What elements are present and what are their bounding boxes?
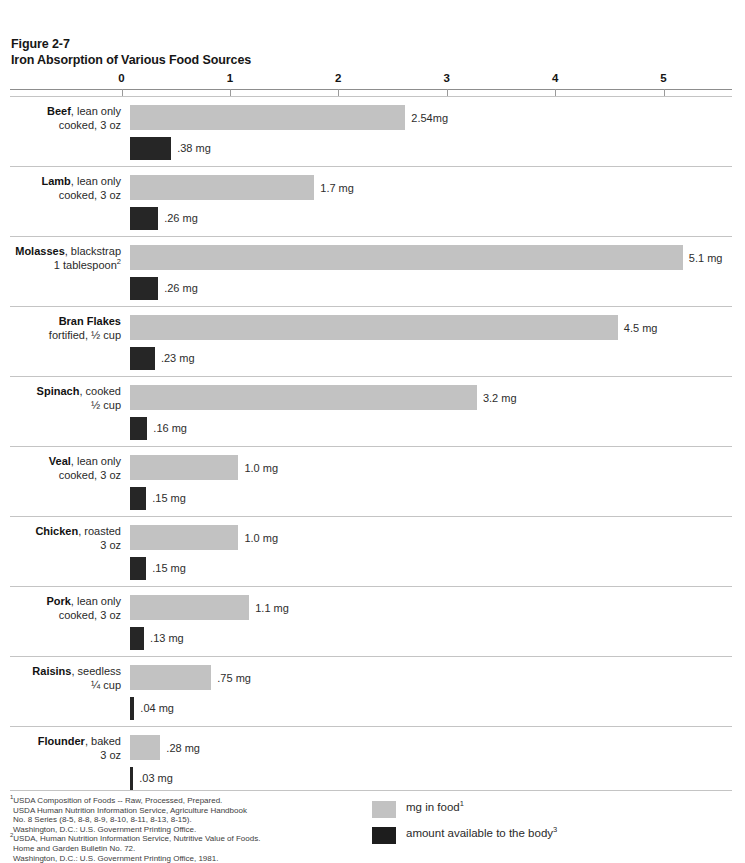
row-divider — [10, 726, 732, 727]
food-name-line: Veal, lean only — [0, 455, 121, 469]
food-name-line: Lamb, lean only — [0, 175, 121, 189]
row-label: Chicken, roasted3 oz — [0, 525, 121, 552]
footnote-line: Home and Garden Bulletin No. 72. — [10, 844, 340, 854]
chart-row: Bran Flakesfortified, ½ cup4.5 mg.23 mg — [0, 306, 745, 376]
bar-mg-in-food — [130, 315, 618, 340]
bar-value-available-to-body: .26 mg — [164, 212, 198, 224]
serving-size-line: ½ cup — [0, 399, 121, 413]
axis-tick-mark — [230, 89, 231, 96]
food-name: Veal — [49, 455, 71, 467]
x-axis: 012345 — [0, 72, 745, 96]
serving-size-line: ¼ cup — [0, 679, 121, 693]
chart-row: Spinach, cooked½ cup3.2 mg.16 mg — [0, 376, 745, 446]
axis-tick-label: 0 — [118, 72, 124, 84]
food-name-line: Chicken, roasted — [0, 525, 121, 539]
food-name-qualifier: , lean only — [71, 595, 121, 607]
food-name-line: Bran Flakes — [0, 315, 121, 329]
bar-available-to-body — [130, 207, 158, 230]
serving-size: fortified, ½ cup — [49, 329, 121, 341]
axis-tick-mark — [664, 89, 665, 96]
serving-size: cooked, 3 oz — [59, 189, 121, 201]
serving-size-line: 3 oz — [0, 539, 121, 553]
food-name-qualifier: , baked — [85, 735, 121, 747]
footer-divider — [10, 790, 732, 791]
bar-mg-in-food — [130, 455, 238, 480]
row-label: Veal, lean onlycooked, 3 oz — [0, 455, 121, 482]
chart-area: 012345 Beef, lean onlycooked, 3 oz2.54mg… — [0, 72, 745, 790]
axis-tick-label: 4 — [552, 72, 558, 84]
bar-value-available-to-body: .26 mg — [164, 282, 198, 294]
food-name-line: Beef, lean only — [0, 105, 121, 119]
bar-mg-in-food — [130, 175, 314, 200]
chart-row: Veal, lean onlycooked, 3 oz1.0 mg.15 mg — [0, 446, 745, 516]
chart-row: Lamb, lean onlycooked, 3 oz1.7 mg.26 mg — [0, 166, 745, 236]
legend-label: mg in food1 — [406, 801, 464, 813]
bar-value-mg-in-food: 3.2 mg — [483, 392, 517, 404]
row-divider — [10, 236, 732, 237]
bar-value-mg-in-food: 1.0 mg — [244, 532, 278, 544]
chart-row: Chicken, roasted3 oz1.0 mg.15 mg — [0, 516, 745, 586]
bar-mg-in-food — [130, 385, 477, 410]
legend-label-text: amount available to the body — [406, 827, 553, 839]
bar-value-mg-in-food: .75 mg — [217, 672, 251, 684]
footnote-line: No. 8 Series (8-5, 8-8, 8-9, 8-10, 8-11,… — [10, 815, 340, 825]
serving-size-line: 1 tablespoon2 — [0, 259, 121, 273]
bar-value-mg-in-food: .28 mg — [166, 742, 200, 754]
row-divider — [10, 376, 732, 377]
bar-value-mg-in-food: 4.5 mg — [624, 322, 658, 334]
serving-size: 1 tablespoon — [54, 259, 117, 271]
row-divider — [10, 166, 732, 167]
serving-size-line: cooked, 3 oz — [0, 469, 121, 483]
bar-value-available-to-body: .15 mg — [152, 492, 186, 504]
axis-tick-label: 3 — [443, 72, 449, 84]
bar-available-to-body — [130, 627, 144, 650]
food-name: Flounder — [38, 735, 85, 747]
footnote-line: 1USDA Composition of Foods -- Raw, Proce… — [10, 796, 340, 806]
food-name: Spinach — [37, 385, 80, 397]
bar-mg-in-food — [130, 105, 405, 130]
bar-value-mg-in-food: 2.54mg — [411, 112, 448, 124]
food-name: Pork — [46, 595, 70, 607]
food-name: Beef — [47, 105, 71, 117]
legend-swatch-food — [372, 801, 396, 818]
serving-size: cooked, 3 oz — [59, 609, 121, 621]
footnote-text: No. 8 Series (8-5, 8-8, 8-9, 8-10, 8-11,… — [13, 815, 192, 824]
figure-number: Figure 2-7 — [11, 36, 251, 52]
footnotes: 1USDA Composition of Foods -- Raw, Proce… — [10, 796, 340, 863]
bar-available-to-body — [130, 697, 134, 720]
axis-tick-mark — [447, 89, 448, 96]
figure-footer: 1USDA Composition of Foods -- Raw, Proce… — [0, 790, 745, 862]
food-name-qualifier: , roasted — [78, 525, 121, 537]
page-title: Iron Absorption of Various Food Sources — [11, 52, 251, 68]
chart-row: Flounder, baked3 oz.28 mg.03 mg — [0, 726, 745, 796]
footnote-line: Washington, D.C.: U.S. Government Printi… — [10, 854, 340, 863]
serving-size-line: fortified, ½ cup — [0, 329, 121, 343]
food-name-line: Flounder, baked — [0, 735, 121, 749]
axis-line — [10, 89, 732, 90]
row-divider — [10, 96, 732, 97]
footnote-marker: 2 — [117, 257, 121, 266]
footnote-text: USDA Human Nutrition Information Service… — [13, 806, 247, 815]
footnote-text: Home and Garden Bulletin No. 72. — [13, 844, 135, 853]
footnote-marker: 3 — [553, 825, 557, 834]
bar-value-available-to-body: .38 mg — [177, 142, 211, 154]
footnote-line: Washington, D.C.: U.S. Government Printi… — [10, 825, 340, 835]
bar-value-mg-in-food: 1.0 mg — [244, 462, 278, 474]
bar-value-available-to-body: .04 mg — [140, 702, 174, 714]
bar-value-available-to-body: .15 mg — [152, 562, 186, 574]
footnote-text: Washington, D.C.: U.S. Government Printi… — [13, 854, 218, 863]
figure-header: Figure 2-7 Iron Absorption of Various Fo… — [11, 36, 251, 68]
bar-value-available-to-body: .13 mg — [150, 632, 184, 644]
legend-entry: mg in food1 — [372, 799, 732, 825]
row-divider — [10, 656, 732, 657]
food-name-qualifier: , lean only — [71, 105, 121, 117]
row-divider — [10, 516, 732, 517]
footnote-marker: 1 — [460, 799, 464, 808]
legend-label: amount available to the body3 — [406, 827, 557, 839]
bar-mg-in-food — [130, 245, 683, 270]
row-label: Pork, lean onlycooked, 3 oz — [0, 595, 121, 622]
bar-mg-in-food — [130, 665, 211, 690]
food-name-line: Spinach, cooked — [0, 385, 121, 399]
axis-tick-mark — [555, 89, 556, 96]
legend-entry: amount available to the body3 — [372, 825, 732, 851]
